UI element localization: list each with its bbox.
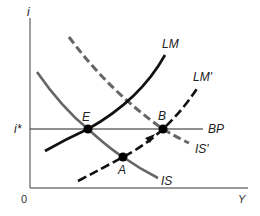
lm-curve	[45, 55, 165, 151]
point-e	[84, 125, 93, 134]
is-lm-bp-diagram: i Y 0 i* LM LM' BP IS' IS E A B	[0, 0, 260, 216]
point-b-label: B	[158, 109, 166, 123]
lm-label: LM	[162, 37, 179, 51]
interest-level-label: i*	[14, 122, 22, 136]
x-axis-label: Y	[238, 193, 246, 205]
lm-prime-label: LM'	[193, 70, 213, 84]
point-e-label: E	[82, 110, 91, 124]
bp-label: BP	[208, 122, 224, 136]
diagram-canvas: i Y 0 i* LM LM' BP IS' IS E A B	[0, 0, 260, 216]
origin-label: 0	[21, 193, 27, 205]
point-b	[159, 125, 168, 134]
point-a	[119, 153, 128, 162]
is-prime-label: IS'	[195, 142, 209, 156]
point-a-label: A	[117, 163, 126, 177]
y-axis-label: i	[27, 5, 30, 19]
is-label: IS	[161, 174, 172, 188]
